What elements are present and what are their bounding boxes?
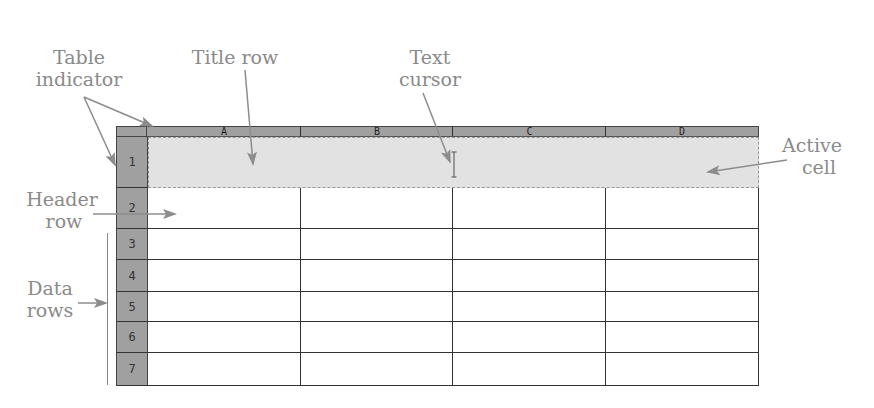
table-indicator-arrow-left bbox=[84, 97, 115, 165]
text-cursor-arrow bbox=[423, 93, 450, 162]
callout-arrows bbox=[0, 0, 874, 408]
table-indicator-arrow-top bbox=[84, 97, 152, 126]
active-cell-arrow bbox=[708, 160, 787, 172]
title-row-arrow bbox=[245, 70, 253, 164]
